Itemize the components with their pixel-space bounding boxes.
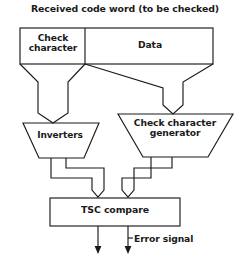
diagram-canvas: Received code word (to be checked) Check… bbox=[0, 0, 250, 263]
output-arrow-head-1 bbox=[95, 246, 102, 254]
inverters-label: Inverters bbox=[24, 131, 96, 141]
diagram-title: Received code word (to be checked) bbox=[14, 4, 236, 14]
check-character-generator-label: Check character generator bbox=[124, 118, 226, 138]
generator-output-connector bbox=[122, 157, 172, 197]
data-label: Data bbox=[88, 40, 212, 50]
data-funnel bbox=[85, 64, 213, 114]
check-character-funnel bbox=[20, 64, 85, 123]
check-character-label: Check character bbox=[21, 33, 85, 53]
output-arrow-head-2 bbox=[125, 246, 132, 254]
tsc-compare-label: TSC compare bbox=[52, 205, 178, 215]
inverters-output-connector bbox=[51, 158, 104, 197]
error-signal-label: Error signal bbox=[134, 234, 230, 244]
